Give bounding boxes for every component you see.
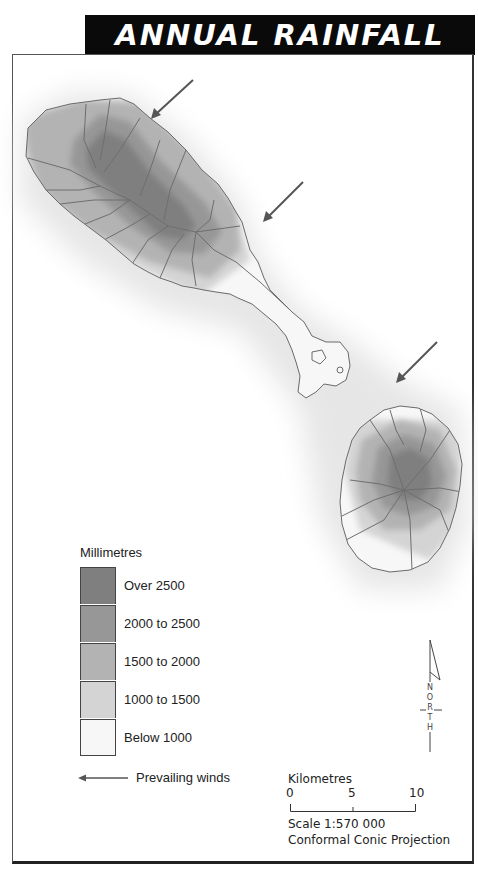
north-arrow-icon: N O R T H [418, 632, 448, 757]
svg-text:R: R [427, 703, 433, 712]
legend-swatch [80, 643, 116, 680]
map-canvas [0, 0, 478, 882]
scale-line [290, 804, 416, 812]
legend-label: 1500 to 2000 [124, 654, 200, 669]
legend-item-1500-2000: 1500 to 2000 [80, 642, 200, 680]
legend-label: Below 1000 [124, 730, 192, 745]
svg-text:N: N [427, 683, 433, 692]
scale-ratio: Scale 1:570 000 [288, 816, 450, 832]
legend-item-below-1000: Below 1000 [80, 718, 200, 756]
prevailing-winds-key: Prevailing winds [78, 770, 230, 785]
scale-tick-0: 0 [286, 786, 294, 800]
svg-text:H: H [427, 723, 433, 732]
svg-text:O: O [427, 693, 433, 702]
legend-swatch [80, 567, 116, 604]
scale-tick-5: 5 [348, 786, 356, 800]
legend-label: 2000 to 2500 [124, 616, 200, 631]
legend-title: Millimetres [80, 545, 200, 560]
svg-text:T: T [427, 713, 433, 722]
legend-swatch [80, 681, 116, 718]
legend-item-1000-1500: 1000 to 1500 [80, 680, 200, 718]
legend-item-2000-2500: 2000 to 2500 [80, 604, 200, 642]
legend-item-over-2500: Over 2500 [80, 566, 200, 604]
winds-label: Prevailing winds [136, 770, 230, 785]
arrow-left-icon [78, 773, 128, 783]
scale-tick-10: 10 [409, 786, 424, 800]
scale-bar: Kilometres 0 5 10 Scale 1:570 000 Confor… [288, 772, 450, 848]
island-st-kitts [0, 80, 360, 410]
legend-swatch [80, 719, 116, 756]
legend-label: Over 2500 [124, 578, 185, 593]
legend-swatch [80, 605, 116, 642]
projection-note: Conformal Conic Projection [288, 832, 450, 848]
legend-label: 1000 to 1500 [124, 692, 200, 707]
legend: Millimetres Over 2500 2000 to 2500 1500 … [80, 545, 200, 756]
scale-title: Kilometres [288, 772, 450, 786]
